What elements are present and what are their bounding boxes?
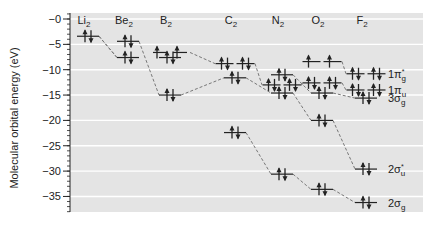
y-tick-label: −25 xyxy=(42,140,61,152)
y-tick-label: −0 xyxy=(48,13,61,25)
y-tick-label: −15 xyxy=(42,89,61,101)
plot-area xyxy=(70,13,423,212)
y-tick-label: −10 xyxy=(42,64,61,76)
y-tick-label: −30 xyxy=(42,165,61,177)
y-axis: −0−5−10−15−20−25−30−35 xyxy=(42,13,70,212)
mo-energy-diagram: −0−5−10−15−20−25−30−35 Li2Be2B2C2N2O2F2 … xyxy=(0,0,446,225)
y-tick-label: −20 xyxy=(42,114,61,126)
y-axis-title: Molecular orbital energy (eV) xyxy=(8,47,20,188)
y-tick-label: −35 xyxy=(42,190,61,202)
y-tick-label: −5 xyxy=(48,38,61,50)
